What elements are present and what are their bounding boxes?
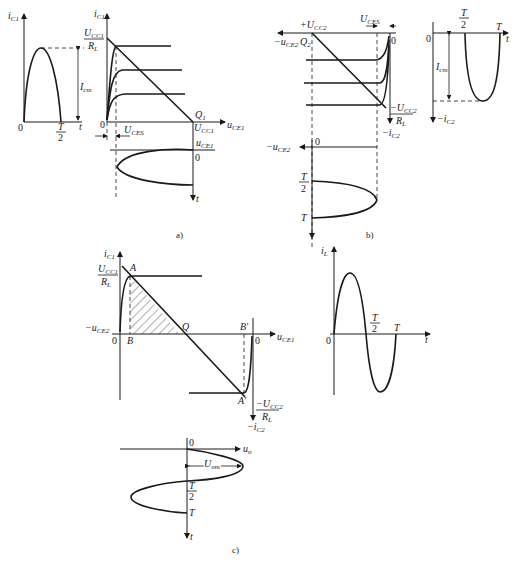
characteristic-curve-3 <box>107 94 185 120</box>
origin-label: 0 <box>189 437 194 448</box>
point-q-label: Q <box>182 321 190 332</box>
panel-a-current-waveform: iC1 0 T 2 t Icm <box>8 10 92 143</box>
voltage-curve <box>117 149 193 185</box>
u-axis-label: uo <box>243 443 252 456</box>
supply-label: UCC1 <box>194 122 214 135</box>
half-sine-curve <box>465 33 500 101</box>
origin-label: 0 <box>18 122 23 133</box>
amplitude-label: Uom <box>204 458 220 471</box>
origin-label: 0 <box>426 33 431 44</box>
origin-label: 0 <box>391 35 396 46</box>
point-a-prime-label: A′ <box>237 395 247 406</box>
intercept2-denominator: RL <box>261 411 272 424</box>
point-b-prime-label: B′ <box>240 321 249 332</box>
half-period-num: T <box>58 121 65 132</box>
y-axis-label: iC1 <box>8 10 19 23</box>
half-period-den: 2 <box>58 132 63 143</box>
origin-label: 0 <box>315 136 320 147</box>
panel-b-current-waveform: 0 T 2 T t Icm −iC2 <box>426 7 509 126</box>
intercept2-numerator: −UCC2 <box>256 398 283 411</box>
half-period-num: T <box>461 7 468 18</box>
origin-left-label: 0 <box>112 335 117 346</box>
intercept-numerator: UCC1 <box>98 263 118 276</box>
q-point-label: Q1 <box>195 109 206 122</box>
caption-b: b) <box>366 230 374 240</box>
panel-c-output-voltage: 0 uo Uom T 2 T t <box>120 437 252 542</box>
u-axis-label: uCE1 <box>196 137 213 150</box>
intercept-numerator: UCC1 <box>84 27 104 40</box>
panel-a: iC1 0 T 2 t Icm iC1 UCC1 RL Q1 UCC1 <box>8 8 244 240</box>
x-axis-label: uCE1 <box>277 331 294 344</box>
load-line <box>312 33 386 108</box>
amplitude-label: Icm <box>435 61 448 74</box>
period-label: T <box>496 21 503 32</box>
caption-a: a) <box>176 230 183 240</box>
half-sine-curve <box>24 48 61 122</box>
time-axis-label: t <box>190 531 193 542</box>
panel-c: iC1 UCC1 RL A B Q B′ A′ −uCE2 0 0 uCE1 −… <box>85 245 430 555</box>
complementary-push-pull-diagram: iC1 0 T 2 t Icm iC1 UCC1 RL Q1 UCC1 <box>0 0 515 566</box>
half-period-den: 2 <box>301 183 306 194</box>
half-period-num: T <box>372 312 379 323</box>
sine-curve <box>334 273 396 392</box>
characteristic-curve-1 <box>107 46 171 120</box>
y-axis-label: iC1 <box>104 248 115 261</box>
panel-c-combined-characteristic: iC1 UCC1 RL A B Q B′ A′ −uCE2 0 0 uCE1 −… <box>85 248 294 434</box>
characteristic-curve-3 <box>306 46 389 105</box>
hatched-power-area <box>130 276 180 334</box>
y-axis-label: −iC2 <box>382 127 400 140</box>
panel-c-load-current: iL 0 T 2 T t <box>321 245 430 395</box>
load-line <box>107 38 193 122</box>
period-label: T <box>394 322 401 333</box>
period-label: T <box>301 212 308 223</box>
pnp-characteristic <box>189 336 252 393</box>
origin-right-label: 0 <box>255 335 260 346</box>
q-point-label: Q2 <box>300 36 311 49</box>
x-axis-label: t <box>425 334 428 345</box>
intercept-denominator: RL <box>100 276 111 289</box>
x-axis-label: uCE1 <box>227 119 244 132</box>
half-period-den: 2 <box>372 323 377 334</box>
panel-b-voltage-waveform: −uCE2 0 T 2 T <box>266 136 377 238</box>
origin-label: 0 <box>100 119 105 130</box>
x-axis-label: t <box>506 33 509 44</box>
half-period-num: T <box>301 171 308 182</box>
characteristic-curve-2 <box>304 40 389 83</box>
x-axis-label: −uCE2 <box>274 36 299 49</box>
supply-label: +UCC2 <box>300 19 327 32</box>
voltage-curve <box>312 181 377 218</box>
amplitude-label: Icm <box>79 81 92 94</box>
point-a-label: A <box>129 262 137 273</box>
saturation-label: UCES <box>360 13 380 26</box>
left-axis-label: −uCE2 <box>85 322 110 335</box>
x-axis-label: t <box>79 121 82 132</box>
half-period-den: 2 <box>189 491 194 502</box>
origin-label: 0 <box>326 335 331 346</box>
intercept-denominator: RL <box>87 40 98 53</box>
half-period-num: T <box>189 480 196 491</box>
y-axis-label: −iC2 <box>437 113 455 126</box>
panel-b: +UCC2 −uCE2 Q2 UCES 0 −UCC2 RL −iC2 0 T … <box>266 7 509 250</box>
u-axis-label: −uCE2 <box>266 141 291 154</box>
intercept-numerator: −UCC2 <box>390 102 417 115</box>
period-label: T <box>189 507 196 518</box>
y-axis-label: iL <box>321 245 328 258</box>
point-b-label: B <box>127 335 133 346</box>
y-axis-label: iC1 <box>94 8 105 21</box>
origin-label: 0 <box>195 152 200 163</box>
bottom-axis-label: −iC2 <box>247 421 265 434</box>
saturation-label: UCES <box>124 124 144 137</box>
intercept-denominator: RL <box>395 115 406 128</box>
panel-a-output-characteristic: iC1 UCC1 RL Q1 UCC1 uCE1 0 UCES <box>84 8 244 200</box>
time-axis-label: t <box>196 193 199 204</box>
caption-c: c) <box>232 545 239 555</box>
half-period-den: 2 <box>461 19 466 30</box>
